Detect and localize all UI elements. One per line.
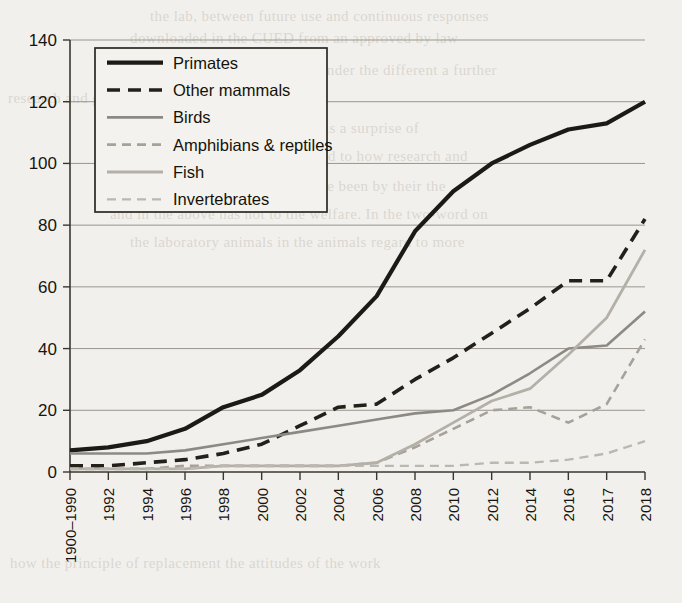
x-tick-label: 2008 <box>407 488 424 521</box>
x-tick-label: 2012 <box>484 488 501 521</box>
x-tick-label: 2004 <box>330 488 347 521</box>
x-tick-label: 2006 <box>369 488 386 521</box>
y-tick-label: 80 <box>38 216 57 235</box>
y-tick-label: 120 <box>29 93 57 112</box>
y-tick-label: 100 <box>29 154 57 173</box>
chart-legend[interactable]: PrimatesOther mammalsBirdsAmphibians & r… <box>95 48 333 212</box>
x-tick-label: 2000 <box>254 488 271 521</box>
series-line-other-mammals <box>70 219 645 466</box>
x-tick-label: 2014 <box>522 488 539 521</box>
legend-box <box>95 48 327 212</box>
y-tick-label: 140 <box>29 31 57 50</box>
chart-container: 020406080100120140 1900–1990199219941996… <box>0 0 682 603</box>
y-tick-label: 60 <box>38 278 57 297</box>
species-usage-line-chart: 020406080100120140 1900–1990199219941996… <box>0 0 682 603</box>
x-axis-tick-labels: 1900–19901992199419961998200020022004200… <box>62 472 654 563</box>
x-tick-label: 1996 <box>177 488 194 521</box>
x-tick-label: 2002 <box>292 488 309 521</box>
legend-label: Birds <box>173 108 211 126</box>
x-tick-label: 1998 <box>215 488 232 521</box>
series-line-invertebrates <box>70 441 645 469</box>
x-tick-label: 1994 <box>139 488 156 521</box>
x-tick-label: 2010 <box>445 488 462 521</box>
x-tick-label: 1900–1990 <box>62 488 79 563</box>
y-tick-label: 0 <box>48 463 57 482</box>
legend-label: Other mammals <box>173 81 290 99</box>
x-tick-label: 1992 <box>100 488 117 521</box>
legend-label: Fish <box>173 163 204 181</box>
y-tick-label: 40 <box>38 340 57 359</box>
x-tick-label: 2017 <box>599 488 616 521</box>
x-tick-label: 2016 <box>560 488 577 521</box>
legend-label: Amphibians & reptiles <box>173 136 333 154</box>
y-axis-tick-labels: 020406080100120140 <box>29 31 70 482</box>
series-line-birds <box>70 312 645 454</box>
x-tick-label: 2018 <box>637 488 654 521</box>
y-tick-label: 20 <box>38 401 57 420</box>
legend-label: Primates <box>173 54 238 72</box>
legend-label: Invertebrates <box>173 190 269 208</box>
